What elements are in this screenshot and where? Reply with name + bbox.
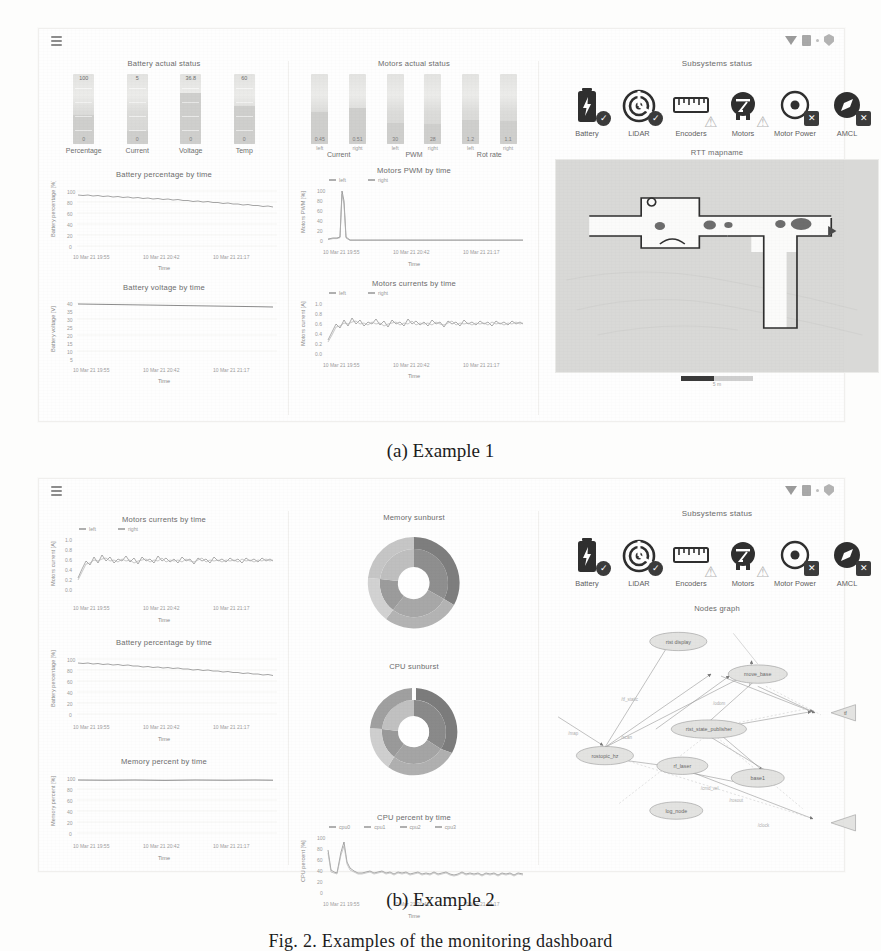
subsystem-lidar[interactable]: ✓ LiDAR (613, 84, 665, 138)
x-tick: 10 Mar 21 20:42 (143, 605, 180, 611)
node-label: move_base (744, 671, 771, 677)
battery-percentage-chart-card: Battery percentage by time Battery perce… (45, 638, 283, 745)
subsystem-motor-power[interactable]: ✕ Motor Power (769, 534, 821, 588)
subsystems-list: ✓ Battery (545, 520, 881, 588)
occupancy-map[interactable] (555, 159, 879, 373)
gauge-temp: 60 0 (234, 74, 255, 144)
hamburger-icon[interactable] (51, 36, 62, 46)
subsystem-label: Motor Power (769, 129, 821, 138)
subsystem-motor-power[interactable]: ✕ Motor Power (769, 84, 821, 138)
subsystem-motors[interactable]: ⚠ Motors (717, 534, 769, 588)
warning-badge: ⚠ (703, 564, 718, 579)
cpu-sunburst-chart[interactable] (295, 673, 533, 791)
battery-percentage-chart: Battery percentage [%] 100 80 60 40 20 0 (45, 181, 283, 273)
y-tick: 0 (320, 238, 323, 244)
subsystem-label: AMCL (821, 129, 873, 138)
subsystem-battery[interactable]: ✓ Battery (561, 534, 613, 588)
card-title: Subsystems status (545, 59, 881, 68)
y-tick: 0 (69, 244, 72, 250)
dot-icon (816, 489, 819, 492)
subsystem-motors[interactable]: ⚠ Motors (717, 84, 769, 138)
cross-badge: ✕ (804, 111, 819, 126)
y-tick: 60 (317, 857, 323, 863)
node-label: rostopic_hz (591, 753, 618, 759)
node-label: log_node (665, 808, 687, 814)
node-label: base1 (751, 775, 765, 781)
motors-currents-chart-card: Motors currents by time left right Motor… (295, 279, 533, 380)
x-tick: 10 Mar 21 20:42 (393, 249, 430, 255)
y-axis-label: Battery percentage [%] (50, 650, 56, 707)
figure-label: Fig. 2. Examples of the monitoring dashb… (0, 931, 881, 951)
y-tick: 100 (67, 657, 76, 663)
column-left: Motors currents by time left right Motor… (39, 505, 289, 871)
x-axis-label: Time (408, 261, 420, 267)
card-title: Memory sunburst (295, 513, 533, 522)
nodes-graph[interactable]: rtst display move_base rtst_state_publis… (551, 615, 881, 833)
y-tick: 0.2 (315, 341, 322, 347)
memory-percent-chart: Memory percent [%] 100 80 60 40 20 0 (45, 768, 283, 864)
x-tick: 10 Mar 21 19:55 (73, 254, 110, 260)
gauge-bottom-value: 0 (180, 136, 201, 142)
y-axis-label: CPU percent [%] (300, 840, 306, 882)
y-tick: 0.6 (65, 557, 72, 563)
battery-actual-status-card: Battery actual status 100 0 5 0 (45, 59, 283, 154)
battery-voltage-chart: Battery voltage [V] 40 35 30 25 20 15 10… (45, 294, 283, 386)
gauge-value: 1.2 (462, 136, 479, 142)
memory-sunburst-chart[interactable] (295, 524, 533, 642)
y-tick: 100 (67, 776, 76, 782)
warning-badge: ⚠ (755, 114, 770, 129)
gauge-label: Current (114, 147, 160, 154)
subsystem-battery[interactable]: ✓ Battery (561, 84, 613, 138)
warning-badge: ⚠ (755, 564, 770, 579)
gauge-rotrate-left: 1.2 (462, 74, 479, 144)
x-tick: 10 Mar 21 19:55 (73, 724, 110, 730)
compass-icon: ✕ (821, 84, 873, 128)
gauge-current-right: 0.51 (349, 74, 366, 144)
y-tick: 60 (67, 211, 73, 217)
y-tick: 1.0 (315, 301, 322, 307)
x-tick: 10 Mar 21 20:42 (393, 362, 430, 368)
gauge-top-value: 36.8 (180, 75, 201, 81)
gauge-current-left: 0.45 (311, 74, 328, 144)
y-tick: 20 (67, 333, 73, 339)
y-tick: 40 (317, 218, 323, 224)
subsystem-amcl[interactable]: ✕ AMCL (821, 534, 873, 588)
battery-percentage-chart: Battery percentage [%] 100 80 60 40 20 0 (45, 649, 283, 745)
motors-gauges: 0.45 0.51 30 28 1.2 (295, 70, 533, 144)
y-tick: 80 (67, 787, 73, 793)
card-title: Battery percentage by time (45, 638, 283, 647)
subsystem-encoders[interactable]: ⚠ Encoders (665, 84, 717, 138)
column-left: Battery actual status 100 0 5 0 (39, 55, 289, 421)
battery-percentage-chart-card: Battery percentage by time Battery perce… (45, 170, 283, 273)
x-tick: 10 Mar 21 20:42 (143, 724, 180, 730)
gauge-top-value: 5 (127, 75, 148, 81)
subsystem-lidar[interactable]: ✓ LiDAR (613, 534, 665, 588)
hamburger-icon[interactable] (51, 486, 62, 496)
x-axis-label: Time (158, 617, 170, 623)
shield-icon (824, 484, 834, 496)
subsystem-label: Battery (561, 129, 613, 138)
y-axis-label: Memory percent [%] (50, 776, 56, 826)
y-tick: 40 (317, 868, 323, 874)
x-tick: 10 Mar 21 21:17 (463, 249, 500, 255)
compass-icon: ✕ (821, 534, 873, 578)
gauge-value: 0.51 (349, 136, 366, 142)
node-label: rtst_state_publisher (686, 726, 732, 732)
subsystem-label: Motors (717, 129, 769, 138)
card-title: Battery voltage by time (45, 283, 283, 292)
subsystem-amcl[interactable]: ✕ AMCL (821, 84, 873, 138)
gauge-percentage: 100 0 (73, 74, 94, 144)
edge-label: /scan (621, 735, 632, 740)
y-tick: 20 (317, 879, 323, 885)
memory-percent-chart-card: Memory percent by time Memory percent [%… (45, 757, 283, 864)
edge-label: /clock (758, 823, 770, 828)
subsystem-label: Battery (561, 579, 613, 588)
gauge-value: 1.1 (500, 136, 517, 142)
node-label: rtst display (666, 639, 692, 645)
battery-icon (802, 485, 811, 496)
x-tick: 10 Mar 21 21:17 (213, 254, 250, 260)
card-title: Memory percent by time (45, 757, 283, 766)
rtt-map-card: RTT mapname (545, 148, 881, 387)
subsystem-encoders[interactable]: ⚠ Encoders (665, 534, 717, 588)
x-tick: 10 Mar 21 19:55 (73, 843, 110, 849)
